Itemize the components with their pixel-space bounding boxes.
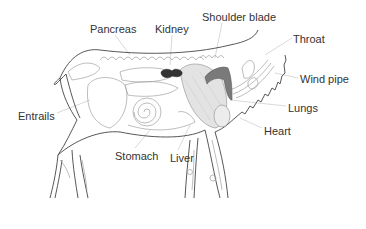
label-lungs: Lungs xyxy=(288,102,318,114)
label-throat: Throat xyxy=(293,33,325,45)
heart-shape xyxy=(214,105,230,127)
label-wind-pipe: Wind pipe xyxy=(300,73,349,85)
label-kidney: Kidney xyxy=(155,23,189,35)
kidney-shape xyxy=(161,69,182,77)
label-heart: Heart xyxy=(264,125,291,137)
leader-lines xyxy=(57,23,298,150)
label-stomach: Stomach xyxy=(115,150,158,162)
label-pancreas: Pancreas xyxy=(90,23,136,35)
label-entrails: Entrails xyxy=(18,110,55,122)
body-outline xyxy=(50,30,286,198)
label-shoulder-blade: Shoulder blade xyxy=(202,11,276,23)
label-liver: Liver xyxy=(170,152,194,164)
